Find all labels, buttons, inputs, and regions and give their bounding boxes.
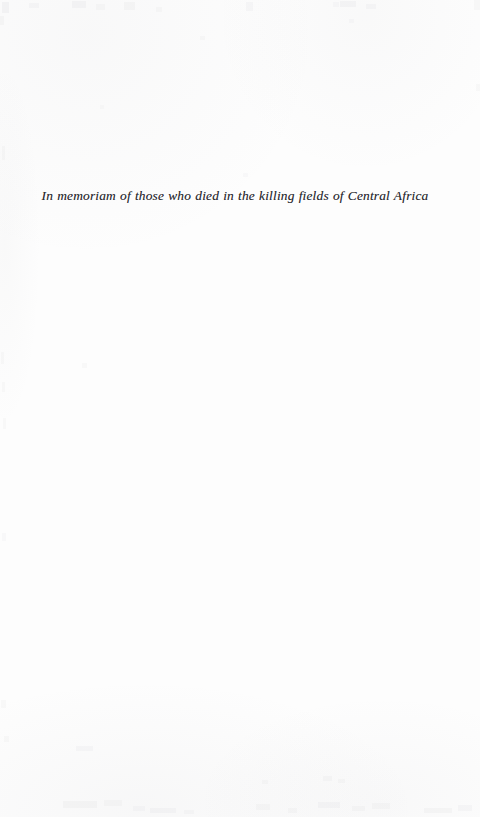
dedication-text: In memoriam of those who died in the kil… bbox=[42, 187, 429, 205]
scanned-book-page: In memoriam of those who died in the kil… bbox=[0, 0, 480, 817]
paper-texture bbox=[0, 0, 480, 817]
scan-speckles bbox=[0, 0, 480, 817]
dedication: In memoriam of those who died in the kil… bbox=[0, 186, 480, 205]
